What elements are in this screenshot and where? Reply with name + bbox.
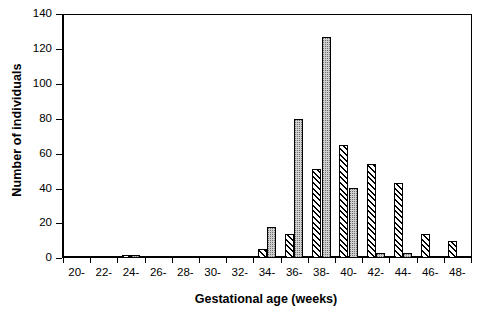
y-tick-mark — [56, 258, 62, 259]
bar-42-hatched — [367, 164, 376, 258]
x-tick-mark — [417, 258, 418, 263]
bar-36-hatched — [285, 234, 294, 258]
bar-42-stippled — [376, 253, 385, 258]
y-tick-mark — [56, 49, 62, 50]
bar-26-hatched — [149, 256, 158, 258]
x-tick-mark — [253, 258, 254, 263]
bar-48-hatched — [448, 241, 457, 258]
y-tick-mark — [56, 119, 62, 120]
x-tick-mark — [471, 258, 472, 263]
y-tick-label: 120 — [18, 43, 52, 54]
y-tick-mark — [56, 154, 62, 155]
y-tick-label: 60 — [18, 148, 52, 159]
x-tick-mark — [335, 258, 336, 263]
x-axis-title: Gestational age (weeks) — [60, 292, 472, 306]
bar-40-hatched — [339, 145, 348, 258]
bar-34-hatched — [258, 249, 267, 258]
y-tick-mark — [56, 189, 62, 190]
y-tick-label: 40 — [18, 183, 52, 194]
x-tick-mark — [117, 258, 118, 263]
bar-32-hatched — [231, 256, 240, 258]
y-tick-label: 20 — [18, 217, 52, 228]
y-tick-label: 100 — [18, 78, 52, 89]
histogram-figure: Number of individuals 0 20 40 60 80 100 … — [0, 0, 485, 318]
bar-24-hatched — [122, 255, 131, 258]
y-tick-label: 140 — [18, 8, 52, 19]
bar-44-stippled — [403, 253, 412, 258]
bar-24-stippled — [131, 255, 140, 258]
bar-38-hatched — [312, 169, 321, 258]
x-tick-mark — [444, 258, 445, 263]
bar-36-stippled — [294, 119, 303, 258]
bar-40-stippled — [349, 188, 358, 258]
y-tick-mark — [56, 14, 62, 15]
x-tick-mark — [172, 258, 173, 263]
x-tick-mark — [63, 258, 64, 263]
x-tick-mark — [281, 258, 282, 263]
y-tick-mark — [56, 84, 62, 85]
x-tick-mark — [145, 258, 146, 263]
bar-46-hatched — [421, 234, 430, 258]
y-tick-label: 80 — [18, 113, 52, 124]
bar-38-stippled — [322, 37, 331, 258]
bar-34-stippled — [267, 227, 276, 258]
x-tick-mark — [199, 258, 200, 263]
x-tick-mark — [90, 258, 91, 263]
y-tick-mark — [56, 223, 62, 224]
x-tick-mark — [389, 258, 390, 263]
y-tick-label: 0 — [18, 252, 52, 263]
bars-layer — [63, 14, 471, 258]
bar-26-stippled — [158, 256, 167, 258]
bar-22-stippled — [104, 256, 113, 258]
x-tick-mark — [226, 258, 227, 263]
bar-22-hatched — [95, 256, 104, 258]
bar-32-stippled — [240, 256, 249, 258]
x-tick-mark — [308, 258, 309, 263]
x-tick-mark — [362, 258, 363, 263]
x-tick-label: 48- — [437, 266, 477, 279]
bar-44-hatched — [394, 183, 403, 258]
bar-30-stippled — [213, 256, 222, 258]
